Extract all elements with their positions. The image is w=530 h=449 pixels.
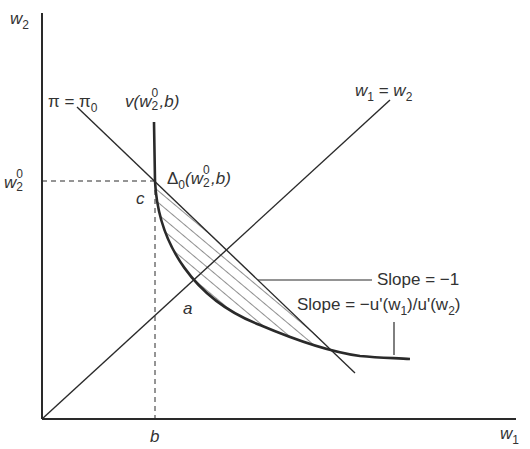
point-c-label: c xyxy=(136,190,145,207)
y-axis-label: w2 xyxy=(10,10,29,27)
iso-profit-line xyxy=(77,107,355,373)
slope-mrs-label: Slope = −u'(w1)/u'(w2) xyxy=(297,296,461,313)
delta-label: Δ0(w02,b) xyxy=(167,170,231,187)
certainty-line-label: w1 = w2 xyxy=(355,82,412,99)
diagram-canvas xyxy=(0,0,530,449)
point-b-label: b xyxy=(150,428,159,445)
x-axis-label: w1 xyxy=(500,425,519,442)
iso-profit-label: π = π0 xyxy=(48,93,98,110)
w20-label: w02 xyxy=(4,174,24,191)
indifference-curve-label: v(w02,b) xyxy=(125,93,179,110)
certainty-line xyxy=(42,100,390,419)
point-a-label: a xyxy=(183,300,192,317)
slope-minus-one-label: Slope = −1 xyxy=(377,271,459,288)
